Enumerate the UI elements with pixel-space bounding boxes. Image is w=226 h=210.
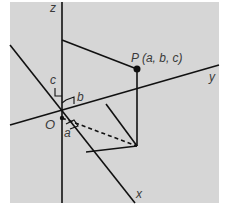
component-c-label: c (50, 73, 56, 87)
component-b-label: b (77, 90, 84, 104)
coordinate-diagram: z y x O P (a, b, c) c b a (0, 0, 226, 210)
b-box (62, 97, 74, 104)
x-axis (10, 45, 135, 203)
z-axis-label: z (49, 1, 56, 15)
component-a-label: a (64, 126, 71, 140)
origin-label: O (45, 117, 55, 132)
z-to-p-line (62, 40, 137, 69)
origin-point (60, 116, 64, 120)
y-axis-label: y (208, 70, 216, 84)
point-p-label: P (a, b, c) (131, 51, 183, 65)
c-box (55, 88, 62, 96)
point-p (134, 66, 141, 73)
x-axis-label: x (135, 187, 143, 201)
x-to-projection-line (86, 146, 137, 152)
